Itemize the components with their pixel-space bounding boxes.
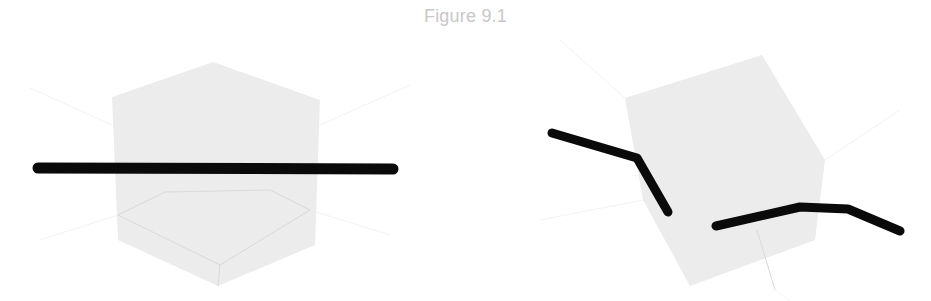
figure-canvas — [0, 0, 931, 301]
right-panel — [552, 55, 900, 290]
rod — [38, 168, 393, 169]
left-panel — [38, 62, 393, 286]
cube-icon — [625, 55, 825, 286]
